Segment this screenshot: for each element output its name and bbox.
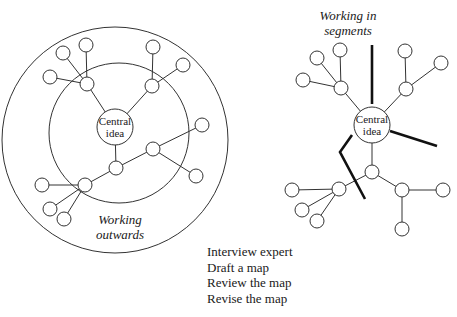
idea-node <box>109 161 123 175</box>
idea-node <box>296 73 310 87</box>
segment-divider-line <box>390 131 437 146</box>
working-in-segments-diagram <box>285 43 450 236</box>
idea-node <box>436 183 450 197</box>
working-outwards-line1: Working <box>90 212 150 227</box>
working-in-segments-line1: Working in <box>316 8 380 23</box>
idea-node <box>310 214 324 228</box>
right-central-idea-label: Central idea <box>354 113 390 137</box>
idea-node <box>78 178 92 192</box>
idea-node <box>43 70 57 84</box>
idea-node <box>146 40 160 54</box>
working-in-segments-line2: segments <box>316 23 380 38</box>
idea-node <box>310 51 324 65</box>
process-steps-list: Interview expert Draft a map Review the … <box>207 244 293 306</box>
idea-node <box>146 142 160 156</box>
idea-node <box>395 183 409 197</box>
central-label-line1: Central <box>97 115 133 127</box>
idea-node <box>395 222 409 236</box>
step-revise-map: Revise the map <box>207 291 293 307</box>
idea-node <box>399 82 413 96</box>
idea-node <box>189 169 203 183</box>
working-outwards-label: Working outwards <box>90 212 150 242</box>
idea-node <box>334 81 348 95</box>
working-outwards-line2: outwards <box>90 227 150 242</box>
branch-line <box>153 125 202 149</box>
idea-node <box>295 203 309 217</box>
idea-node <box>57 212 71 226</box>
central-label-line1: Central <box>354 113 390 125</box>
idea-node <box>332 182 346 196</box>
idea-node <box>35 178 49 192</box>
idea-node <box>80 77 94 91</box>
central-label-line2: idea <box>97 127 133 139</box>
working-in-segments-label: Working in segments <box>316 8 380 38</box>
step-review-map: Review the map <box>207 275 293 291</box>
idea-node <box>195 118 209 132</box>
left-central-idea-label: Central idea <box>97 115 133 139</box>
idea-node <box>285 183 299 197</box>
idea-node <box>145 79 159 93</box>
central-label-line2: idea <box>354 125 390 137</box>
idea-node <box>79 38 93 52</box>
idea-node <box>365 165 379 179</box>
step-interview-expert: Interview expert <box>207 244 293 260</box>
idea-node <box>434 56 448 70</box>
idea-node <box>333 43 347 57</box>
step-draft-map: Draft a map <box>207 260 293 276</box>
idea-node <box>43 202 57 216</box>
idea-node <box>398 44 412 58</box>
idea-node <box>176 58 190 72</box>
idea-node <box>56 46 70 60</box>
branch-line <box>153 149 196 176</box>
